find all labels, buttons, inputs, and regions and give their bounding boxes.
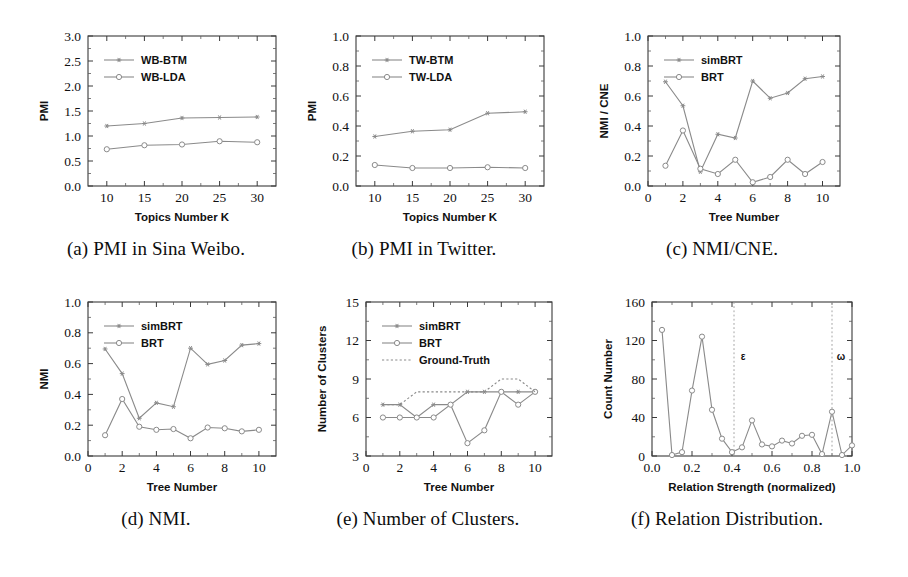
x-tick-label: 30 xyxy=(250,190,264,205)
data-point xyxy=(205,425,210,430)
y-tick-label: 40 xyxy=(632,410,646,425)
legend-marker xyxy=(395,324,400,328)
data-point xyxy=(709,407,714,412)
data-point xyxy=(516,390,521,394)
data-point xyxy=(739,445,744,450)
series-line-BRT xyxy=(105,399,259,438)
legend-label: TW-LDA xyxy=(409,71,452,83)
data-point xyxy=(188,436,193,441)
data-point xyxy=(669,452,674,457)
chart-d: 02468100.00.20.40.60.81.0simBRTBRTTree N… xyxy=(22,288,290,502)
data-point xyxy=(448,128,453,132)
data-point xyxy=(137,424,142,429)
y-tick-label: 0.2 xyxy=(332,149,349,164)
data-point xyxy=(820,159,825,164)
chart-f: 0.00.20.40.60.81.004080120160εωRelation … xyxy=(572,288,882,502)
data-point xyxy=(485,165,490,170)
x-tick-label: 20 xyxy=(175,190,189,205)
x-tick-label: 10 xyxy=(368,190,382,205)
data-point xyxy=(809,432,814,437)
plot-frame xyxy=(652,302,852,456)
data-point xyxy=(733,157,738,162)
y-tick-label: 0.8 xyxy=(64,325,81,340)
chart-e: 02468103691215simBRTBRTGround-TruthTree … xyxy=(290,288,566,502)
y-tick-label: 0.0 xyxy=(64,449,81,464)
data-point xyxy=(839,452,844,457)
legend-marker xyxy=(385,58,390,62)
chart-a: 10152025300.00.51.01.52.02.53.0WB-BTMWB-… xyxy=(22,22,290,232)
data-point xyxy=(715,171,720,176)
y-tick-label: 0.4 xyxy=(64,387,81,402)
subplot-panel-b: 10152025300.00.20.40.60.81.0TW-BTMTW-LDA… xyxy=(290,22,558,232)
data-point xyxy=(699,334,704,339)
chart-b: 10152025300.00.20.40.60.81.0TW-BTMTW-LDA… xyxy=(290,22,558,232)
legend-marker xyxy=(117,324,122,328)
legend-marker xyxy=(116,74,121,79)
series-line-simBRT xyxy=(665,77,822,172)
data-point xyxy=(680,128,685,133)
x-tick-label: 0.4 xyxy=(724,460,741,475)
subplot-plot-c: 02468100.00.20.40.60.81.0simBRTBRTTree N… xyxy=(572,22,872,232)
x-tick-label: 2 xyxy=(396,460,403,475)
x-tick-label: 2 xyxy=(119,460,126,475)
series-line-simBRT xyxy=(105,344,259,419)
y-tick-label: 0.6 xyxy=(624,89,641,104)
data-point xyxy=(431,415,436,420)
y-tick-label: 3 xyxy=(352,449,359,464)
x-tick-label: 4 xyxy=(430,460,437,475)
x-tick-label: 0.6 xyxy=(764,460,781,475)
x-axis-title: Topics Number K xyxy=(135,211,230,223)
data-point xyxy=(759,442,764,447)
subplot-caption-d: (d) NMI. xyxy=(22,508,290,530)
y-axis-title: PMI xyxy=(38,101,50,121)
y-tick-label: 0.5 xyxy=(64,154,81,169)
data-point xyxy=(659,327,664,332)
x-tick-label: 0.2 xyxy=(684,460,701,475)
legend-label: Ground-Truth xyxy=(419,354,490,366)
data-point xyxy=(689,388,694,393)
legend-marker xyxy=(394,340,399,345)
y-axis-title: Count Number xyxy=(602,339,614,419)
legend-label: simBRT xyxy=(141,320,183,332)
y-tick-label: 6 xyxy=(352,410,359,425)
x-tick-label: 0 xyxy=(85,460,92,475)
subplot-panel-a: 10152025300.00.51.01.52.02.53.0WB-BTMWB-… xyxy=(22,22,290,232)
data-point xyxy=(729,450,734,455)
data-point xyxy=(516,402,521,407)
data-point xyxy=(715,132,720,136)
y-tick-label: 0.8 xyxy=(332,59,349,74)
y-tick-label: 0.0 xyxy=(624,179,641,194)
subplot-caption-c: (c) NMI/CNE. xyxy=(572,238,872,260)
x-axis-title: Topics Number K xyxy=(403,211,498,223)
data-point xyxy=(372,162,377,167)
figure-root: 10152025300.00.51.01.52.02.53.0WB-BTMWB-… xyxy=(0,0,908,577)
series-line-simBRT xyxy=(383,392,535,418)
subplot-plot-e: 02468103691215simBRTBRTGround-TruthTree … xyxy=(290,288,566,502)
x-tick-label: 6 xyxy=(187,460,194,475)
legend-marker xyxy=(384,74,389,79)
x-tick-label: 0 xyxy=(363,460,370,475)
legend-marker xyxy=(676,74,681,79)
x-tick-label: 0.8 xyxy=(804,460,821,475)
data-point xyxy=(779,438,784,443)
legend-marker xyxy=(117,58,122,62)
data-point xyxy=(447,165,452,170)
y-tick-label: 12 xyxy=(346,333,360,348)
y-tick-label: 2.5 xyxy=(64,54,81,69)
y-tick-label: 3.0 xyxy=(64,29,81,44)
y-tick-label: 120 xyxy=(625,333,646,348)
data-point xyxy=(104,124,109,128)
data-point xyxy=(750,180,755,185)
x-tick-label: 6 xyxy=(464,460,471,475)
y-tick-label: 0.4 xyxy=(332,119,349,134)
x-tick-label: 4 xyxy=(153,460,160,475)
y-tick-label: 1.0 xyxy=(64,295,81,310)
x-tick-label: 0.0 xyxy=(644,460,661,475)
data-point xyxy=(663,163,668,168)
y-tick-label: 1.0 xyxy=(332,29,349,44)
data-point xyxy=(142,143,147,148)
legend-label: TW-BTM xyxy=(409,54,453,66)
x-tick-label: 10 xyxy=(528,460,542,475)
subplot-caption-e: (e) Number of Clusters. xyxy=(290,508,566,530)
data-point xyxy=(802,171,807,176)
